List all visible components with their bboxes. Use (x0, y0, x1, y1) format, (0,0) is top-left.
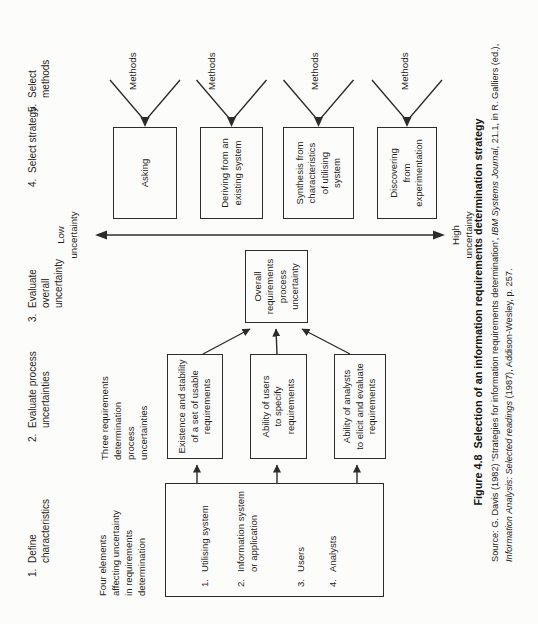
source-book-title: Information Analysis: Selected readings (504, 401, 514, 562)
arrowhead-up-icon (95, 231, 107, 240)
methods-fork-deriving (197, 80, 267, 127)
uncertainty-scale-arrow (95, 231, 445, 240)
figure-4-8-diagram: 1. Define characteristics 2. Evaluate pr… (0, 0, 538, 624)
scanned-figure-page: 1. Define characteristics 2. Evaluate pr… (0, 0, 538, 624)
arrowhead-left-icon (141, 117, 150, 127)
methods-fork-asking (110, 80, 180, 127)
source-line-2: Information Analysis: Selected readings … (504, 269, 514, 563)
arrowhead-left-icon (227, 117, 236, 127)
source-text: Source: G. Davis (1982) 'Strategies for … (490, 235, 500, 562)
source-journal-title: IBM Systems Journal (490, 148, 500, 235)
source-line-1: Source: G. Davis (1982) 'Strategies for … (490, 44, 500, 562)
uncertainty-to-overall-arrows (203, 329, 350, 354)
methods-fork-discovering (372, 80, 442, 127)
arrowhead-left-icon (403, 117, 412, 127)
arrowhead-left-icon (314, 117, 323, 127)
figure-caption: Figure 4.8 Selection of an information r… (472, 0, 484, 624)
source-text: , 21.1, in R. Galliers (ed.), (490, 44, 500, 149)
arrows-layer (0, 0, 538, 624)
source-text: (1987), Addison-Wesley, p. 257. (504, 269, 514, 401)
methods-fork-synthesis (284, 80, 354, 127)
elements-to-uncertainty-arrows (197, 465, 357, 483)
arrowhead-down-icon (433, 231, 445, 240)
